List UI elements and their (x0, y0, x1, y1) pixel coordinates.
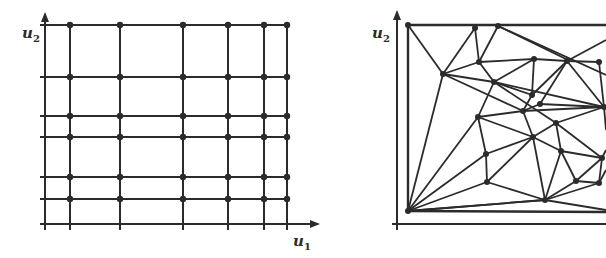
mesh-node (476, 59, 482, 65)
right-u2-label: u2 (372, 24, 390, 44)
u2-symbol-right: u (372, 24, 383, 42)
grid-node (261, 174, 267, 180)
mesh-node (596, 180, 602, 186)
grid-node (284, 134, 290, 140)
u2-subscript: 2 (33, 33, 40, 44)
grid-node (180, 74, 186, 80)
triangular-mesh-panel (392, 12, 606, 230)
mesh-node (483, 151, 489, 157)
grid-node (225, 196, 231, 202)
grid-node (67, 22, 73, 28)
grid-node (117, 196, 123, 202)
mesh-node (530, 134, 536, 140)
grid-node (117, 22, 123, 28)
structured-grid-panel (40, 14, 318, 230)
grid-node (284, 74, 290, 80)
left-u1-label: u1 (293, 232, 311, 252)
mesh-node (558, 148, 564, 154)
grid-node (117, 74, 123, 80)
left-u2-label: u2 (22, 24, 40, 44)
mesh-node (484, 179, 490, 185)
mesh-node (520, 108, 526, 114)
u2-symbol: u (22, 24, 33, 42)
mesh-boundary-bottom (408, 211, 606, 212)
grid-node (67, 74, 73, 80)
mesh-node (537, 101, 543, 107)
grid-node (261, 196, 267, 202)
mesh-node (405, 208, 411, 214)
grid-node (284, 113, 290, 119)
grid-node (67, 134, 73, 140)
grid-node (180, 174, 186, 180)
u1-symbol: u (293, 232, 304, 250)
grid-lines (40, 25, 287, 230)
grid-node (180, 22, 186, 28)
grid-node (180, 196, 186, 202)
grid-node (180, 134, 186, 140)
grid-node (284, 22, 290, 28)
grid-node (117, 113, 123, 119)
grid-node (225, 74, 231, 80)
mesh-node (472, 25, 478, 31)
mesh-node (531, 56, 537, 62)
diagram-canvas (0, 0, 606, 258)
mesh-node (475, 114, 481, 120)
grid-node (261, 22, 267, 28)
grid-node (261, 134, 267, 140)
grid-node (117, 174, 123, 180)
mesh-node (529, 92, 535, 98)
grid-node (67, 196, 73, 202)
mesh-node (440, 71, 446, 77)
grid-node (225, 174, 231, 180)
mesh-node (599, 155, 605, 161)
mesh-node (596, 59, 602, 65)
grid-node (67, 113, 73, 119)
mesh-node (491, 79, 497, 85)
grid-node (284, 174, 290, 180)
mesh-node (495, 23, 501, 29)
mesh-node (564, 58, 570, 64)
grid-node (117, 134, 123, 140)
grid-node (261, 113, 267, 119)
u2-subscript-right: 2 (383, 33, 390, 44)
grid-node (67, 174, 73, 180)
grid-node (225, 113, 231, 119)
grid-nodes (67, 22, 290, 202)
mesh-node (405, 22, 411, 28)
grid-node (284, 196, 290, 202)
grid-node (225, 134, 231, 140)
grid-node (180, 113, 186, 119)
mesh-node (542, 197, 548, 203)
u1-subscript: 1 (304, 241, 311, 252)
grid-node (225, 22, 231, 28)
mesh-node (573, 178, 579, 184)
mesh-node (553, 120, 559, 126)
mesh-nodes (405, 22, 606, 214)
grid-node (261, 74, 267, 80)
